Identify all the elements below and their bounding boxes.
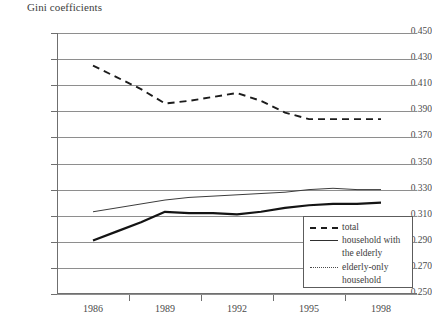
legend-label: total [342,221,359,234]
chart-legend: totalhousehold withthe elderlyelderly-on… [303,216,413,288]
x-tick-label: 1992 [202,303,272,314]
legend-item-elderly-only-household-line2: household [304,274,414,288]
legend-label: the elderly [342,247,382,260]
series-line-total [93,66,381,119]
legend-sample-dot [310,267,338,268]
legend-label: household with [342,234,400,247]
x-tick-label: 1986 [58,303,128,314]
x-tick-mark [129,294,130,301]
legend-item-household-with-elderly-line2: the elderly [304,247,414,261]
x-tick-mark [345,294,346,301]
x-tick-label: 1998 [346,303,416,314]
chart-root: Gini coefficients 0.4500.4300.4100.3900.… [0,0,432,328]
legend-item-household-with-elderly: household with [304,234,414,248]
legend-label: household [342,274,381,287]
chart-title: Gini coefficients [27,1,102,13]
x-tick-mark [273,294,274,301]
series-line-elderly-only-household [93,188,381,211]
x-tick-label: 1995 [274,303,344,314]
x-tick-label: 1989 [130,303,200,314]
gridline [57,294,417,295]
legend-label: elderly-only [342,261,388,274]
legend-sample-solid [310,240,338,241]
legend-item-total: total [304,221,414,235]
legend-item-elderly-only-household: elderly-only [304,261,414,275]
x-tick-mark [201,294,202,301]
legend-sample-dash [310,227,338,229]
